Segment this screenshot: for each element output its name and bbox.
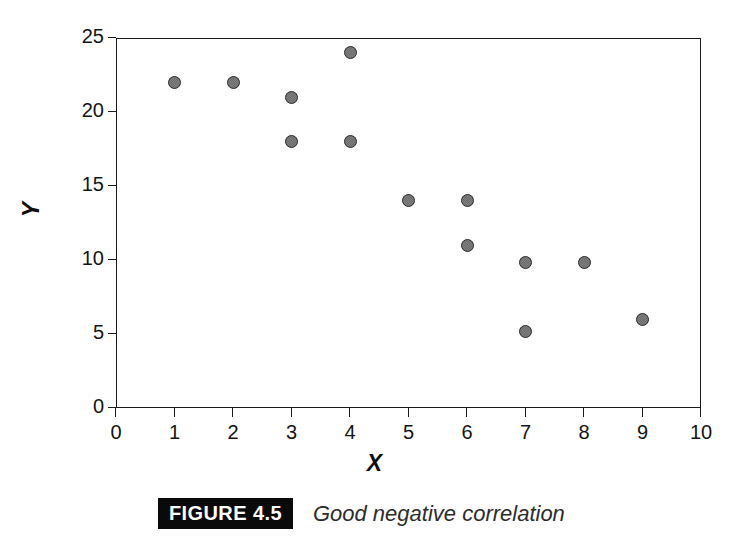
- x-tick-label: 2: [208, 421, 258, 444]
- x-tick-label: 5: [384, 421, 434, 444]
- y-tick-label: 20: [52, 99, 104, 122]
- y-tick-label: 15: [52, 173, 104, 196]
- figure-caption: FIGURE 4.5 Good negative correlation: [158, 498, 565, 529]
- x-tick-label: 0: [91, 421, 141, 444]
- x-tick-label: 4: [325, 421, 375, 444]
- figure-caption-text: Good negative correlation: [313, 501, 565, 527]
- y-tick-mark: [108, 333, 116, 334]
- x-tick-mark: [232, 408, 233, 417]
- x-tick-mark: [408, 408, 409, 417]
- x-tick-mark: [466, 408, 467, 417]
- plot-frame: [116, 38, 701, 408]
- x-tick-mark: [115, 408, 116, 417]
- x-axis-title: X: [0, 450, 749, 477]
- x-tick-label: 3: [267, 421, 317, 444]
- y-tick-label: 5: [52, 321, 104, 344]
- x-tick-label: 9: [618, 421, 668, 444]
- x-tick-label: 1: [150, 421, 200, 444]
- y-axis-title: Y: [18, 202, 45, 217]
- x-tick-label: 10: [676, 421, 726, 444]
- x-tick-label: 8: [559, 421, 609, 444]
- x-tick-mark: [174, 408, 175, 417]
- x-tick-mark: [525, 408, 526, 417]
- x-tick-mark: [349, 408, 350, 417]
- y-tick-mark: [108, 111, 116, 112]
- x-tick-mark: [583, 408, 584, 417]
- x-tick-label: 7: [501, 421, 551, 444]
- x-tick-mark: [642, 408, 643, 417]
- x-tick-mark: [291, 408, 292, 417]
- y-tick-label: 10: [52, 247, 104, 270]
- x-tick-mark: [700, 408, 701, 417]
- y-tick-label: 25: [52, 25, 104, 48]
- x-tick-label: 6: [442, 421, 492, 444]
- y-tick-mark: [108, 185, 116, 186]
- y-tick-mark: [108, 259, 116, 260]
- figure-number-tag: FIGURE 4.5: [158, 498, 293, 529]
- y-tick-label: 0: [52, 395, 104, 418]
- figure-page: 0510152025 012345678910 Y X FIGURE 4.5 G…: [0, 0, 749, 548]
- y-tick-mark: [108, 37, 116, 38]
